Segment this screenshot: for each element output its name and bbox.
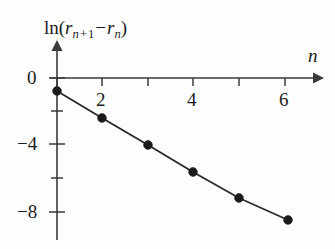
data-point — [284, 216, 293, 225]
data-point — [53, 87, 62, 96]
data-point — [189, 168, 198, 177]
x-tick-label-4: 4 — [187, 90, 197, 109]
series-line — [57, 91, 288, 220]
data-point — [98, 114, 107, 123]
y-tick-label-minus8: −8 — [17, 202, 37, 221]
data-point — [235, 194, 244, 203]
x-tick-label-6: 6 — [279, 90, 289, 109]
y-axis-title-r-first: r — [65, 17, 72, 38]
y-axis-arrowhead — [52, 40, 63, 51]
y-axis-title-close-paren: ) — [121, 17, 127, 38]
y-axis-title-ln: ln( — [44, 17, 65, 38]
y-axis-title: ln(rn+1−rn) — [44, 18, 127, 40]
data-point — [144, 141, 153, 150]
y-axis-title-minus: − — [94, 17, 107, 38]
chart-figure: ln(rn+1−rn) n 0 −4 −8 2 4 6 — [0, 0, 335, 249]
x-tick-label-2: 2 — [96, 90, 106, 109]
y-tick-label-0: 0 — [27, 68, 37, 87]
y-axis-title-subscript-n-first: n — [73, 27, 79, 41]
y-axis-title-plus: + — [79, 27, 88, 41]
y-tick-label-minus4: −4 — [17, 134, 37, 153]
x-axis-arrowhead — [313, 73, 324, 84]
x-axis-title: n — [308, 46, 318, 65]
